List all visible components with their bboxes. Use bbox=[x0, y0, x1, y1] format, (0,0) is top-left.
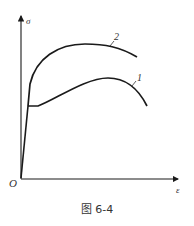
origin-label: O bbox=[9, 177, 17, 189]
curve-1-label: 1 bbox=[137, 72, 142, 83]
curve-2 bbox=[28, 44, 137, 106]
stress-strain-diagram: σ ε O 2 1 图 6-4 bbox=[0, 0, 194, 226]
curve-2-label: 2 bbox=[114, 31, 119, 42]
curve-1 bbox=[28, 78, 147, 106]
elastic-line bbox=[21, 106, 28, 178]
x-axis-label: ε bbox=[176, 185, 180, 195]
y-axis-label: σ bbox=[26, 16, 31, 26]
leader-1 bbox=[132, 81, 136, 86]
figure-caption: 图 6-4 bbox=[81, 203, 113, 216]
